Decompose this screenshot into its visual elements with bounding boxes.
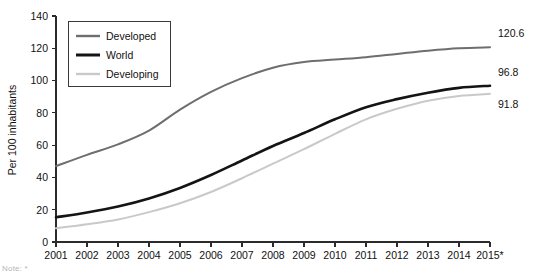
line-chart: 140120100806040200 200120022003200420052… (0, 0, 541, 271)
x-tick-label: 2004 (137, 249, 161, 261)
y-tick-label: 60 (36, 139, 48, 151)
x-tick-label: 2006 (199, 249, 223, 261)
y-tick-label: 0 (42, 236, 48, 248)
y-axis: 140120100806040200 (30, 10, 56, 248)
x-tick-label: 2009 (292, 249, 316, 261)
x-tick-label: 2012 (385, 249, 409, 261)
chart-footnote: Note: * (2, 264, 28, 271)
x-tick-label: 2007 (230, 249, 254, 261)
x-tick-label: 2002 (75, 249, 99, 261)
x-tick-label: 2015* (476, 249, 503, 261)
y-axis-title: Per 100 inhabitants (6, 85, 18, 175)
end-label-world: 96.8 (498, 66, 519, 78)
y-tick-label: 40 (36, 171, 48, 183)
x-tick-label: 2003 (106, 249, 130, 261)
x-tick-label: 2010 (323, 249, 347, 261)
x-tick-label: 2008 (261, 249, 285, 261)
y-tick-label: 100 (30, 74, 48, 86)
x-tick-label: 2005 (168, 249, 192, 261)
legend-label-developed: Developed (106, 30, 156, 42)
x-tick-label: 2014 (447, 249, 471, 261)
chart-legend: DevelopedWorldDeveloping (68, 21, 170, 86)
end-label-developed: 120.6 (498, 27, 524, 39)
series-line-world (56, 86, 490, 218)
x-tick-label: 2011 (355, 249, 378, 261)
end-label-developing: 91.8 (498, 98, 519, 110)
y-tick-label: 120 (30, 42, 48, 54)
y-tick-label: 80 (36, 107, 48, 119)
chart-container: 140120100806040200 200120022003200420052… (0, 0, 541, 271)
legend-label-world: World (106, 49, 133, 61)
y-tick-label: 20 (36, 204, 48, 216)
x-axis: 2001200220032004200520062007200820092010… (44, 242, 503, 261)
series-line-developing (56, 94, 490, 228)
series-end-labels: 120.696.891.8 (498, 27, 524, 109)
x-tick-label: 2001 (44, 249, 68, 261)
y-tick-label: 140 (30, 10, 48, 22)
x-tick-label: 2013 (416, 249, 440, 261)
legend-label-developing: Developing (106, 68, 159, 80)
